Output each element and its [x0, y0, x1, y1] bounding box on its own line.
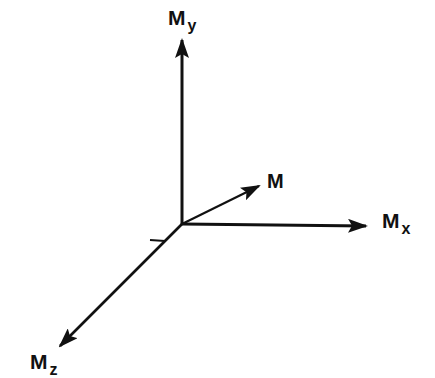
axis-mx-line: [182, 224, 366, 226]
axis-mz-label-main: M: [30, 350, 48, 373]
vector-m: [182, 186, 259, 224]
axis-mx-label-main: M: [382, 209, 400, 232]
axis-mz-label-sub: z: [50, 361, 58, 378]
axis-my-label-main: M: [168, 6, 186, 29]
axis-mz-line: [60, 224, 182, 346]
vector-m-label-main: M: [267, 170, 284, 192]
vector-m-line: [182, 186, 259, 224]
axis-mz-barb: [150, 240, 165, 241]
axis-mz-label: Mz: [30, 350, 58, 374]
axis-my-label: My: [168, 6, 196, 30]
axis-mx: [182, 224, 366, 226]
axis-my-label-sub: y: [188, 17, 197, 34]
vector-m-label: M: [267, 170, 284, 193]
axis-mz: [60, 224, 182, 346]
axis-mx-label: Mx: [382, 209, 410, 233]
axis-mx-label-sub: x: [402, 220, 411, 237]
